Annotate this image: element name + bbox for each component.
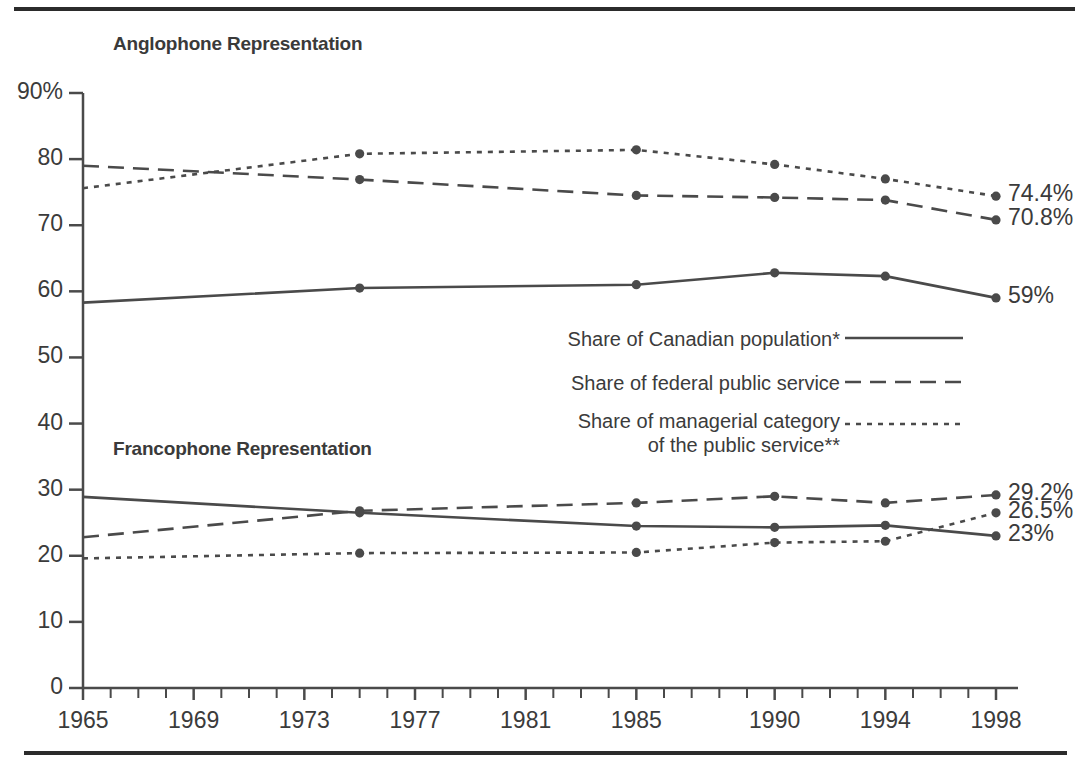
data-point-marker <box>770 268 779 277</box>
series-layer <box>83 145 1001 558</box>
data-point-marker <box>632 145 641 154</box>
data-point-marker <box>632 521 641 530</box>
axes-layer <box>69 93 1018 700</box>
y-tick-label: 20 <box>0 541 63 568</box>
series-end-label: 70.8% <box>1008 204 1073 231</box>
data-point-marker <box>881 174 890 183</box>
y-tick-label: 50 <box>0 342 63 369</box>
data-point-marker <box>355 283 364 292</box>
data-point-marker <box>770 492 779 501</box>
data-point-marker <box>991 531 1000 540</box>
y-tick-label: 70 <box>0 210 63 237</box>
data-point-marker <box>770 193 779 202</box>
data-point-marker <box>632 498 641 507</box>
data-point-marker <box>991 508 1000 517</box>
data-point-marker <box>355 506 364 515</box>
series-end-label: 26.5% <box>1008 497 1073 524</box>
data-point-marker <box>881 196 890 205</box>
x-tick-label: 1981 <box>481 707 571 734</box>
y-tick-label: 10 <box>0 607 63 634</box>
legend-line-samples <box>845 338 963 424</box>
data-point-marker <box>991 192 1000 201</box>
data-point-marker <box>632 280 641 289</box>
series-end-label: 74.4% <box>1008 180 1073 207</box>
y-tick-label: 60 <box>0 276 63 303</box>
y-tick-label: 40 <box>0 409 63 436</box>
data-point-marker <box>881 521 890 530</box>
figure-container: Anglophone Representation Francophone Re… <box>0 0 1087 761</box>
x-tick-label: 1994 <box>840 707 930 734</box>
x-tick-label: 1969 <box>149 707 239 734</box>
legend-label-1: Share of federal public service <box>540 372 840 395</box>
x-tick-label: 1973 <box>259 707 349 734</box>
x-tick-label: 1977 <box>370 707 460 734</box>
series-end-label: 59% <box>1008 282 1054 309</box>
legend-label-2-line2: of the public service** <box>540 434 840 457</box>
data-point-marker <box>355 175 364 184</box>
series-line-francophone-dotted <box>83 513 996 559</box>
data-point-marker <box>881 537 890 546</box>
x-tick-label: 1985 <box>591 707 681 734</box>
data-point-marker <box>632 191 641 200</box>
series-line-francophone-solid <box>83 497 996 536</box>
data-point-marker <box>355 549 364 558</box>
data-point-marker <box>770 523 779 532</box>
data-point-marker <box>881 272 890 281</box>
data-point-marker <box>991 490 1000 499</box>
y-tick-label: 90% <box>0 78 63 105</box>
x-tick-label: 1990 <box>730 707 820 734</box>
data-point-marker <box>991 215 1000 224</box>
series-end-label: 23% <box>1008 520 1054 547</box>
data-point-marker <box>991 293 1000 302</box>
series-line-anglophone-dashed <box>83 166 996 220</box>
y-tick-label: 30 <box>0 475 63 502</box>
y-tick-label: 80 <box>0 144 63 171</box>
series-line-anglophone-solid <box>83 273 996 303</box>
x-tick-label: 1965 <box>38 707 128 734</box>
data-point-marker <box>770 160 779 169</box>
data-point-marker <box>881 498 890 507</box>
data-point-marker <box>770 538 779 547</box>
data-point-marker <box>355 149 364 158</box>
legend-label-0: Share of Canadian population* <box>540 328 840 351</box>
x-tick-label: 1998 <box>951 707 1041 734</box>
data-point-marker <box>632 548 641 557</box>
y-tick-label: 0 <box>0 673 63 700</box>
legend-label-2: Share of managerial category <box>540 410 840 433</box>
series-line-francophone-dashed <box>83 495 996 537</box>
